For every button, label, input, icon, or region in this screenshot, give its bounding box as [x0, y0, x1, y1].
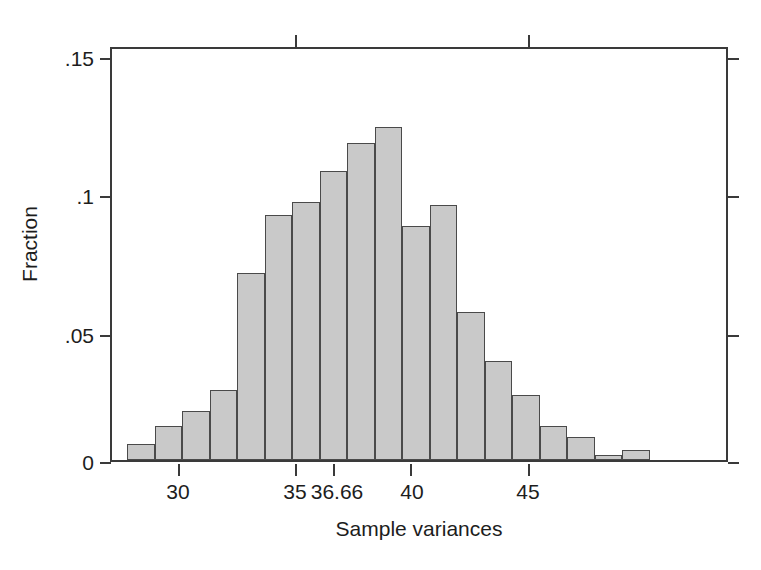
- x-axis-tick: [410, 464, 412, 476]
- histogram-bar: [375, 127, 403, 460]
- y-axis-tick: [100, 462, 111, 464]
- y-tick-label-1: .1: [20, 186, 94, 207]
- x-axis-tick-top: [528, 35, 530, 47]
- y-axis-tick-right: [728, 58, 739, 60]
- y-axis-tick-right: [728, 335, 739, 337]
- histogram-figure: Fraction .15 .1 .05 0 30 35 36.66 40 45 …: [0, 0, 761, 570]
- histogram-bar: [237, 273, 265, 460]
- x-axis-tick: [528, 464, 530, 476]
- y-axis-tick-right: [728, 196, 739, 198]
- y-tick-label-3: 0: [20, 452, 94, 473]
- y-tick-label-0: .15: [20, 48, 94, 69]
- histogram-bar: [512, 395, 540, 460]
- y-axis-tick-right: [728, 462, 739, 464]
- histogram-bar: [430, 205, 458, 460]
- histogram-bar: [127, 444, 155, 460]
- x-axis-tick: [295, 464, 297, 476]
- x-axis-title: Sample variances: [110, 517, 728, 541]
- x-axis-tick: [333, 464, 335, 476]
- y-tick-label-2: .05: [20, 325, 94, 346]
- histogram-bar: [622, 450, 650, 460]
- histogram-bar: [540, 426, 568, 460]
- x-axis-tick-top: [295, 35, 297, 47]
- plot-area: [110, 47, 728, 462]
- x-tick-label-0: 30: [118, 481, 238, 502]
- histogram-bar: [320, 171, 348, 460]
- x-tick-label-4: 45: [468, 481, 588, 502]
- histogram-bar: [457, 312, 485, 460]
- histogram-bar: [485, 361, 513, 460]
- histogram-bar: [292, 202, 320, 460]
- x-axis-tick: [178, 464, 180, 476]
- histogram-bar: [347, 143, 375, 460]
- histogram-bar: [182, 411, 210, 460]
- histogram-bar: [402, 226, 430, 460]
- histogram-bar: [567, 437, 595, 460]
- x-tick-label-3: 40: [352, 481, 472, 502]
- histogram-bar: [265, 215, 293, 460]
- histogram-bar: [210, 390, 238, 460]
- histogram-bar: [155, 426, 183, 460]
- bar-series: [112, 49, 726, 460]
- histogram-bar: [595, 455, 623, 460]
